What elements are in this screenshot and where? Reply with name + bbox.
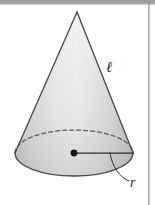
base-center-dot	[71, 150, 78, 157]
radius-label: r	[130, 176, 135, 190]
top-scan-band-soft	[0, 4, 155, 5]
slant-height-label: ℓ	[106, 60, 112, 75]
right-page-rule	[148, 0, 150, 205]
cone-figure: ℓ r	[0, 0, 155, 205]
top-scan-band	[0, 0, 155, 4]
